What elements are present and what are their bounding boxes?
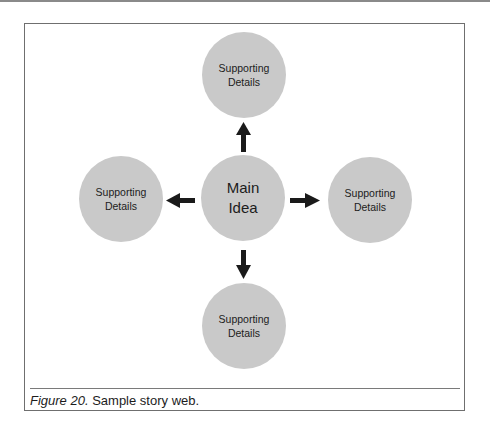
center-line1: Main xyxy=(227,178,260,198)
node-center-main-idea: Main Idea xyxy=(201,155,285,241)
caption-label: Figure 20. xyxy=(30,393,89,408)
node-top: Supporting Details xyxy=(202,32,286,118)
arrow-up-icon xyxy=(236,122,251,152)
node-right-line1: Supporting xyxy=(345,186,396,200)
caption-text: Sample story web. xyxy=(89,393,200,408)
node-right-line2: Details xyxy=(354,200,386,214)
node-bottom-line1: Supporting xyxy=(219,312,270,326)
node-top-line2: Details xyxy=(228,75,260,89)
node-top-line1: Supporting xyxy=(219,61,270,75)
node-right: Supporting Details xyxy=(328,157,412,243)
arrow-right-icon xyxy=(290,193,320,208)
node-bottom: Supporting Details xyxy=(202,283,286,369)
arrow-left-icon xyxy=(166,193,195,208)
node-left: Supporting Details xyxy=(79,156,163,242)
caption-divider xyxy=(30,388,460,389)
arrow-down-icon xyxy=(236,250,251,279)
node-left-line2: Details xyxy=(105,199,137,213)
node-left-line1: Supporting xyxy=(96,185,147,199)
figure-caption: Figure 20. Sample story web. xyxy=(30,393,199,408)
node-bottom-line2: Details xyxy=(228,326,260,340)
center-line2: Idea xyxy=(228,198,257,218)
